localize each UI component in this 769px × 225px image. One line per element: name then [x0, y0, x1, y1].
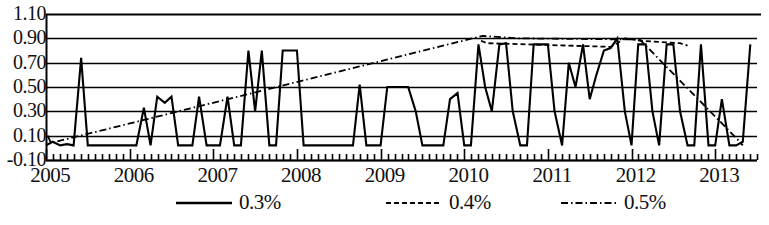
x-axis-tick-label: 2006	[114, 163, 154, 187]
x-axis-labels: 200520062007200820092010201120122013	[0, 163, 769, 189]
legend-item[interactable]: 0.4%	[385, 192, 491, 213]
x-axis-tick-label: 2009	[365, 163, 405, 187]
line-chart-figure: 1.100.900.700.500.300.10-0.10 2005200620…	[0, 0, 769, 225]
x-axis-tick-label: 2011	[532, 163, 571, 187]
legend-item-label: 0.4%	[449, 192, 491, 213]
data-series-line	[46, 38, 750, 145]
legend-line-swatch-dashed	[385, 197, 443, 209]
legend-line-swatch-solid	[175, 197, 233, 209]
x-axis-tick-label: 2007	[197, 163, 237, 187]
x-axis-tick-label: 2013	[699, 163, 739, 187]
data-series-layer	[46, 36, 750, 145]
x-axis-tick-label: 2010	[448, 163, 488, 187]
legend-item-label: 0.3%	[239, 192, 281, 213]
x-axis-major-ticks	[47, 149, 716, 160]
plot-area	[0, 0, 769, 175]
legend-line-swatch-dash-dot	[560, 197, 618, 209]
x-axis-tick-label: 2008	[281, 163, 321, 187]
chart-legend: 0.3%0.4%0.5%	[0, 190, 769, 225]
legend-item-label: 0.5%	[624, 192, 666, 213]
x-axis-tick-label: 2012	[616, 163, 656, 187]
x-axis-minor-ticks	[54, 154, 758, 160]
x-axis-tick-label: 2005	[30, 163, 70, 187]
legend-item[interactable]: 0.5%	[560, 192, 666, 213]
legend-item[interactable]: 0.3%	[175, 192, 281, 213]
